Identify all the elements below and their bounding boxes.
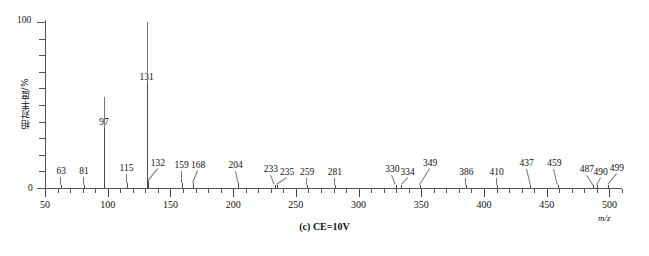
peak-label: 330 — [385, 164, 399, 174]
x-axis-tick-label: 150 — [163, 199, 178, 210]
x-axis-tick — [509, 189, 510, 193]
peak-label: 499 — [610, 163, 624, 173]
y-axis-tick — [37, 188, 45, 189]
peak-label-leader-line — [147, 22, 148, 83]
x-axis-tick — [83, 189, 84, 193]
peak-label: 81 — [79, 166, 89, 176]
x-axis-tick — [572, 189, 573, 193]
peak-label: 490 — [594, 167, 608, 177]
x-axis-tick — [208, 189, 209, 193]
peak-label: 349 — [423, 158, 437, 168]
peak-label: 235 — [280, 167, 294, 177]
x-axis-tick — [346, 189, 347, 193]
x-axis-tick-label: 350 — [414, 199, 429, 210]
peak-label-leader-line — [60, 177, 61, 185]
peak-bar — [608, 185, 609, 188]
x-axis-tick-label: 100 — [100, 199, 115, 210]
x-axis-tick — [58, 189, 59, 193]
peak-label: 459 — [547, 158, 561, 168]
peak-label-leader-line — [586, 175, 593, 185]
peak-label-leader-line — [147, 168, 158, 181]
peak-bar — [275, 185, 276, 188]
x-axis-tick — [258, 189, 259, 193]
y-axis-tick — [39, 155, 45, 156]
x-axis-tick — [484, 189, 485, 197]
peak-bar — [307, 185, 308, 188]
x-axis-tick — [196, 189, 197, 193]
y-axis-tick — [39, 122, 45, 123]
peak-label: 386 — [459, 167, 473, 177]
x-axis-tick — [497, 189, 498, 193]
x-axis-tick — [321, 189, 322, 193]
peak-label-leader-line — [526, 169, 531, 185]
peak-label: 132 — [151, 158, 165, 168]
x-axis-tick — [158, 189, 159, 193]
x-axis-tick — [522, 189, 523, 193]
y-axis-tick — [39, 39, 45, 40]
x-axis-tick-label: 250 — [288, 199, 303, 210]
x-axis-tick — [183, 189, 184, 193]
y-axis-tick — [39, 105, 45, 106]
peak-bar — [84, 185, 85, 188]
peak-label-leader-line — [181, 171, 182, 183]
y-axis-tick — [39, 138, 45, 139]
peak-label: 115 — [120, 163, 134, 173]
x-axis-tick — [396, 189, 397, 193]
peak-bar — [396, 185, 397, 188]
peak-label: 487 — [580, 164, 594, 174]
x-axis-tick — [296, 189, 297, 197]
peak-label-leader-line — [607, 173, 617, 184]
y-axis-top-tick-label: 100 — [17, 15, 31, 25]
x-axis-tick-label: 500 — [602, 199, 617, 210]
y-axis-bottom-tick-label: 0 — [28, 183, 33, 193]
y-axis-tick — [39, 55, 45, 56]
y-axis-tick — [39, 72, 45, 73]
x-axis-tick — [534, 189, 535, 193]
peak-label: 259 — [300, 167, 314, 177]
x-axis-tick-label: 400 — [477, 199, 492, 210]
x-axis-tick — [584, 189, 585, 193]
x-axis-tick — [409, 189, 410, 193]
x-axis-tick — [597, 189, 598, 193]
x-axis-tick — [559, 189, 560, 193]
peak-bar — [193, 183, 194, 188]
x-axis-tick — [308, 189, 309, 193]
x-axis-tick — [133, 189, 134, 193]
peak-label: 204 — [229, 160, 243, 170]
x-axis-tick — [170, 189, 171, 197]
peak-bar — [558, 185, 559, 188]
peak-bar — [597, 185, 598, 188]
peak-bar — [401, 185, 402, 188]
peak-label-leader-line — [192, 171, 198, 183]
peak-bar — [593, 185, 594, 188]
peak-label-leader-line — [270, 175, 275, 185]
peak-label: 437 — [520, 158, 534, 168]
peak-bar — [238, 183, 239, 188]
peak-bar — [466, 185, 467, 188]
x-axis-tick — [108, 189, 109, 197]
peak-label: 334 — [400, 167, 414, 177]
x-axis-tick — [384, 189, 385, 193]
x-axis-tick — [283, 189, 284, 193]
x-axis-tick-label: 200 — [226, 199, 241, 210]
mass-spectrum-figure: 100 0 相对丰度/% 501001502002503003504004505… — [0, 0, 649, 256]
peak-label-leader-line — [126, 174, 127, 183]
peak-bar — [277, 185, 278, 188]
peak-bar — [497, 185, 498, 188]
peak-label-leader-line — [596, 178, 601, 185]
x-axis-tick — [95, 189, 96, 193]
peak-label-leader-line — [83, 177, 84, 185]
y-axis-line — [45, 20, 46, 189]
x-axis-tick — [609, 189, 610, 197]
x-axis-tick — [421, 189, 422, 197]
x-axis-tick — [446, 189, 447, 193]
x-axis-tick — [434, 189, 435, 193]
x-axis-tick — [359, 189, 360, 197]
peak-label-leader-line — [419, 168, 430, 184]
x-axis-tick — [547, 189, 548, 197]
peak-label-leader-line — [276, 177, 287, 185]
peak-label-leader-line — [465, 178, 466, 185]
y-axis-tick — [39, 171, 45, 172]
x-axis-tick-label: 50 — [40, 199, 50, 210]
peak-label: 159 — [175, 160, 189, 170]
